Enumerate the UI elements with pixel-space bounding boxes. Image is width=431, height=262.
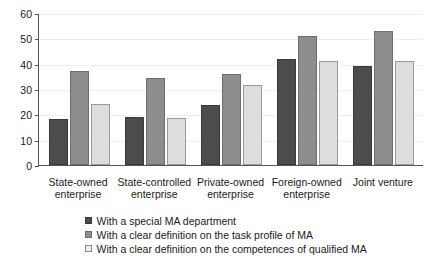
plot-wrapper: 0102030405060 xyxy=(0,0,431,175)
legend-label: With a special MA department xyxy=(97,215,236,227)
y-axis-tick-label: 50 xyxy=(20,34,32,45)
y-axis-tick-label: 0 xyxy=(26,161,32,172)
legend-swatch-icon xyxy=(85,231,92,238)
chart-legend: With a special MA departmentWith a clear… xyxy=(0,214,431,255)
category-label-line: enterprise xyxy=(269,188,345,200)
x-axis-category-label: Private-ownedenterprise xyxy=(192,176,268,208)
bar xyxy=(125,117,144,165)
x-axis-category-label: Foreign-ownedenterprise xyxy=(269,176,345,208)
category-label-line: Foreign-owned xyxy=(269,176,345,188)
category-label-line: Private-owned xyxy=(192,176,268,188)
legend-label: With a clear definition on the task prof… xyxy=(97,229,314,241)
legend-swatch-icon xyxy=(85,217,92,224)
bar-group xyxy=(193,14,269,165)
category-label-line: State-controlled xyxy=(116,176,192,188)
bar xyxy=(91,104,110,165)
y-axis-tick-label: 60 xyxy=(20,9,32,20)
legend-swatch-icon xyxy=(85,245,92,252)
x-axis-category-label: Joint venture xyxy=(345,176,421,208)
bar-group xyxy=(117,14,193,165)
bar xyxy=(49,119,68,165)
bar-groups xyxy=(39,14,423,165)
bar xyxy=(167,118,186,165)
bar xyxy=(70,71,89,165)
y-axis-tick-label: 30 xyxy=(20,85,32,96)
category-label-line: Joint venture xyxy=(345,176,421,188)
bar xyxy=(243,85,262,165)
x-axis-category-label: State-controlledenterprise xyxy=(116,176,192,208)
bar-group xyxy=(345,14,421,165)
bar xyxy=(319,61,338,165)
bar xyxy=(201,105,220,165)
bar-chart: 0102030405060 State-ownedenterpriseState… xyxy=(0,0,431,262)
legend-item[interactable]: With a clear definition on the task prof… xyxy=(85,228,347,241)
y-axis-tick-labels: 0102030405060 xyxy=(0,0,36,175)
bar xyxy=(395,61,414,165)
category-label-line: enterprise xyxy=(116,188,192,200)
y-axis-tick-label: 40 xyxy=(20,59,32,70)
legend-item[interactable]: With a special MA department xyxy=(85,214,347,227)
y-axis-tick-mark xyxy=(35,166,39,167)
category-label-line: enterprise xyxy=(192,188,268,200)
legend-label: With a clear definition on the competenc… xyxy=(97,243,367,255)
category-label-line: enterprise xyxy=(40,188,116,200)
x-axis-category-label: State-ownedenterprise xyxy=(40,176,116,208)
plot-area xyxy=(38,14,423,166)
bar xyxy=(298,36,317,165)
category-label-line: State-owned xyxy=(40,176,116,188)
bar-group xyxy=(269,14,345,165)
bar xyxy=(146,78,165,165)
bar xyxy=(374,31,393,165)
y-axis-tick-label: 20 xyxy=(20,110,32,121)
bar xyxy=(277,59,296,165)
y-axis-tick-label: 10 xyxy=(20,135,32,146)
bar-group xyxy=(41,14,117,165)
bar xyxy=(222,74,241,165)
legend-item[interactable]: With a clear definition on the competenc… xyxy=(85,242,347,255)
x-axis-category-labels: State-ownedenterpriseState-controlledent… xyxy=(38,176,423,208)
bar xyxy=(353,66,372,165)
